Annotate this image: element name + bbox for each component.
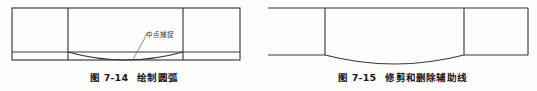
trimmed-arc-drawing — [268, 0, 537, 68]
figure-7-15: 图 7-15修剪和删除辅助线 — [268, 0, 537, 91]
page-canvas: 中点捕捉 图 7-14绘制圆弧 图 7-15修剪和删除辅助线 — [0, 0, 537, 91]
figure-caption-7-14: 图 7-14绘制圆弧 — [0, 70, 268, 84]
figure-caption-number: 图 7-14 — [90, 70, 128, 84]
drawn-arc — [68, 52, 183, 60]
figure-7-14: 中点捕捉 图 7-14绘制圆弧 — [0, 0, 268, 91]
midpoint-snap-annotation: 中点捕捉 — [146, 29, 174, 39]
retained-arc — [325, 55, 464, 64]
figure-caption-text: 绘制圆弧 — [137, 70, 178, 84]
arc-construction-drawing — [0, 0, 268, 68]
figure-caption-number: 图 7-15 — [338, 70, 376, 84]
figure-caption-7-15: 图 7-15修剪和删除辅助线 — [268, 70, 537, 84]
figure-caption-text: 修剪和删除辅助线 — [385, 70, 467, 84]
